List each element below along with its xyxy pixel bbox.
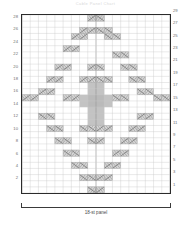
row-number-left-24: 24: [0, 39, 20, 45]
row-number-left-10: 10: [0, 126, 20, 132]
row-number-left-16: 16: [0, 88, 20, 94]
row-number-right-15: 15: [171, 95, 191, 101]
row-numbers-left: 282624222018161412108642: [0, 14, 20, 194]
chart-title: Cable Panel Chart: [0, 1, 191, 6]
row-numbers-right: 2927252321191715131197531: [171, 14, 191, 194]
panel-width-bracket: [21, 203, 171, 208]
row-number-left-20: 20: [0, 64, 20, 70]
row-number-right-13: 13: [171, 107, 191, 113]
row-number-left-12: 12: [0, 113, 20, 119]
row-number-right-11: 11: [171, 120, 191, 126]
row-number-right-27: 27: [171, 20, 191, 26]
row-number-right-23: 23: [171, 45, 191, 51]
row-number-right-19: 19: [171, 70, 191, 76]
row-number-left-22: 22: [0, 51, 20, 57]
knitting-chart-grid[interactable]: [21, 14, 171, 194]
row-number-right-7: 7: [171, 144, 191, 150]
row-number-left-26: 26: [0, 26, 20, 32]
row-number-right-3: 3: [171, 169, 191, 175]
row-number-left-6: 6: [0, 151, 20, 157]
row-number-left-28: 28: [0, 14, 20, 20]
row-number-right-9: 9: [171, 132, 191, 138]
row-number-left-8: 8: [0, 138, 20, 144]
row-number-right-1: 1: [171, 182, 191, 188]
row-number-right-17: 17: [171, 82, 191, 88]
row-number-right-29: 29: [171, 8, 191, 14]
chart-page: Cable Panel Chart 2826242220181614121086…: [0, 0, 191, 230]
row-number-right-21: 21: [171, 57, 191, 63]
row-number-left-4: 4: [0, 163, 20, 169]
panel-caption: 18-st panel: [21, 210, 171, 215]
chart-canvas: [22, 15, 170, 193]
row-number-left-14: 14: [0, 101, 20, 107]
row-number-right-25: 25: [171, 33, 191, 39]
row-number-left-18: 18: [0, 76, 20, 82]
row-number-right-5: 5: [171, 157, 191, 163]
row-number-left-2: 2: [0, 175, 20, 181]
